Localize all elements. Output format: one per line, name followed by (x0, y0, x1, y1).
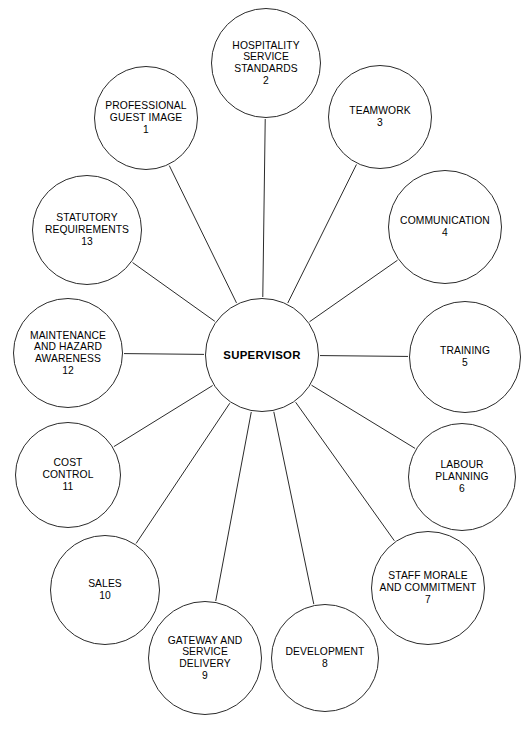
satellite-node-label: HOSPITALITY SERVICE STANDARDS 2 (226, 40, 305, 87)
spoke-line-8 (274, 412, 314, 604)
satellite-node-7: STAFF MORALE AND COMMITMENT 7 (371, 531, 485, 645)
satellite-node-label: LABOUR PLANNING 6 (429, 459, 494, 494)
satellite-node-5: TRAINING 5 (409, 301, 521, 413)
satellite-node-6: LABOUR PLANNING 6 (408, 423, 516, 531)
satellite-node-12: MAINTENANCE AND HAZARD AWARENESS 12 (13, 298, 123, 408)
spoke-line-7 (296, 402, 395, 541)
spoke-line-5 (320, 356, 408, 357)
spoke-line-4 (310, 260, 398, 322)
satellite-node-label: COST CONTROL 11 (36, 457, 99, 492)
satellite-node-label: PROFESSIONAL GUEST IMAGE 1 (99, 100, 192, 135)
spoke-line-12 (124, 354, 204, 355)
satellite-node-2: HOSPITALITY SERVICE STANDARDS 2 (211, 8, 321, 118)
satellite-node-9: GATEWAY AND SERVICE DELIVERY 9 (148, 601, 262, 715)
spoke-line-2 (263, 119, 265, 297)
satellite-node-4: COMMUNICATION 4 (388, 170, 502, 284)
satellite-node-label: DEVELOPMENT 8 (280, 646, 371, 669)
satellite-node-label: STATUTORY REQUIREMENTS 13 (39, 212, 135, 247)
spoke-line-3 (288, 164, 357, 303)
satellite-node-10: SALES 10 (50, 535, 160, 645)
satellite-node-13: STATUTORY REQUIREMENTS 13 (32, 175, 142, 285)
spoke-line-6 (312, 385, 416, 448)
satellite-node-label: STAFF MORALE AND COMMITMENT 7 (374, 570, 483, 605)
spoke-line-9 (216, 412, 252, 601)
satellite-node-3: TEAMWORK 3 (328, 65, 432, 169)
satellite-node-8: DEVELOPMENT 8 (271, 604, 379, 712)
center-node-label: SUPERVISOR (217, 349, 306, 362)
satellite-node-label: GATEWAY AND SERVICE DELIVERY 9 (162, 635, 249, 682)
satellite-node-label: TEAMWORK 3 (343, 105, 416, 128)
satellite-node-1: PROFESSIONAL GUEST IMAGE 1 (94, 66, 198, 170)
satellite-node-label: COMMUNICATION 4 (394, 215, 496, 238)
satellite-node-label: SALES 10 (82, 578, 128, 601)
spoke-line-1 (169, 166, 236, 303)
satellite-node-11: COST CONTROL 11 (15, 422, 121, 528)
spoke-line-13 (133, 263, 215, 322)
satellite-node-label: TRAINING 5 (434, 345, 496, 368)
satellite-node-label: MAINTENANCE AND HAZARD AWARENESS 12 (24, 330, 112, 377)
spoke-line-10 (136, 403, 230, 543)
center-node-supervisor: SUPERVISOR (205, 298, 319, 412)
radial-diagram-canvas: PROFESSIONAL GUEST IMAGE 1HOSPITALITY SE… (0, 0, 525, 731)
spoke-line-11 (114, 386, 213, 447)
